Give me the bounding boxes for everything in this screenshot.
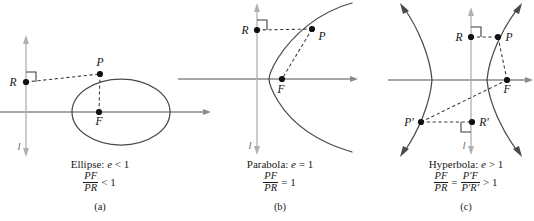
panel-b-graphic: R P F l <box>178 3 358 155</box>
caption-a-denominator: PR <box>83 182 98 194</box>
caption-b-prefix: Parabola: <box>247 158 289 170</box>
panel-a-graphic: R P F l <box>0 35 211 157</box>
panel-b-axis-letter: l <box>248 139 251 151</box>
caption-c-numerator-2: P′F <box>462 171 479 182</box>
caption-b-denominator: PR <box>263 182 278 194</box>
caption-b-relation: = 1 <box>299 158 313 170</box>
caption-panel-c: Hyperbola: e > 1 PFPR=P′FP′R′> 1 (c) <box>398 158 534 213</box>
caption-b-equation: PFPR= 1 <box>218 172 342 195</box>
conic-sections-figure: R P F l <box>0 0 534 221</box>
point-R-b <box>254 27 260 33</box>
label-P-b: P <box>317 30 325 42</box>
panel-c-segment-PF <box>498 37 507 80</box>
label-P-c: P <box>504 31 512 43</box>
panel-a-directrix <box>23 35 29 157</box>
caption-c-var: e <box>481 158 486 170</box>
label-R-a: R <box>8 76 16 88</box>
caption-b-var: e <box>291 158 296 170</box>
caption-b-panel-letter: (b) <box>218 201 342 213</box>
caption-c-fraction-1: PFPR <box>434 171 449 194</box>
caption-a-prefix: Ellipse: <box>71 158 105 170</box>
caption-c-fraction-2: P′FP′R′ <box>461 171 480 194</box>
label-R-b: R <box>240 24 248 36</box>
caption-a-panel-letter: (a) <box>38 201 162 213</box>
label-F-a: F <box>94 115 103 127</box>
panel-c-axis-letter: l <box>462 139 465 151</box>
caption-panel-a: Ellipse: e < 1 PFPR< 1 (a) <box>38 158 162 213</box>
caption-c-denominator-1: PR <box>434 182 449 194</box>
caption-b-ratio-relation: = 1 <box>281 176 295 188</box>
panel-c-segment-PprimeF <box>421 80 507 122</box>
point-R-c <box>468 34 474 40</box>
panel-c-horizontal-axis <box>388 77 533 83</box>
point-F-b <box>279 76 285 82</box>
panel-b-horizontal-axis <box>178 76 358 82</box>
caption-panel-b: Parabola: e = 1 PFPR= 1 (b) <box>218 158 342 213</box>
panel-a-axis-letter: l <box>17 140 20 152</box>
point-R-a <box>23 79 29 85</box>
point-P-c <box>495 34 501 40</box>
label-F-b: F <box>276 83 285 95</box>
label-Rprime-c: R′ <box>478 116 489 128</box>
caption-a-fraction: PFPR <box>83 171 98 194</box>
label-F-c: F <box>502 83 511 95</box>
caption-c-numerator-1: PF <box>434 171 449 182</box>
caption-c-ratio-relation: > 1 <box>483 176 497 188</box>
panel-a-segment-PF <box>99 74 100 112</box>
panel-a-segment-PR <box>26 74 100 82</box>
caption-a-ratio-relation: < 1 <box>101 176 115 188</box>
caption-c-equals: = <box>451 176 457 188</box>
caption-a-numerator: PF <box>83 171 98 182</box>
caption-c-relation: > 1 <box>489 158 503 170</box>
caption-c-panel-letter: (c) <box>398 201 534 213</box>
point-Rprime-c <box>469 119 475 125</box>
caption-b-numerator: PF <box>263 171 278 182</box>
panel-b-segment-PR <box>257 29 312 30</box>
label-R-c: R <box>454 31 462 43</box>
panel-a-horizontal-axis <box>0 109 211 115</box>
caption-b-fraction: PFPR <box>263 171 278 194</box>
caption-a-relation: < 1 <box>115 158 129 170</box>
label-Pprime-c: P′ <box>403 116 414 128</box>
caption-a-var: e <box>107 158 112 170</box>
point-P-b <box>309 26 315 32</box>
caption-b-title: Parabola: e = 1 <box>218 158 342 171</box>
panel-b-segment-PF <box>282 29 312 79</box>
caption-a-title: Ellipse: e < 1 <box>38 158 162 171</box>
panel-c-directrix <box>468 7 474 155</box>
panel-c-graphic: R P F P′ R′ l <box>388 3 533 157</box>
point-P-a <box>97 71 103 77</box>
caption-c-prefix: Hyperbola: <box>429 158 478 170</box>
caption-c-denominator-2: P′R′ <box>461 182 480 194</box>
caption-c-equation: PFPR=P′FP′R′> 1 <box>398 172 534 195</box>
label-P-a: P <box>95 56 103 68</box>
caption-a-equation: PFPR< 1 <box>38 172 162 195</box>
point-Pprime-c <box>418 119 424 125</box>
